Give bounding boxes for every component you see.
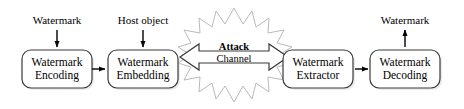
block-label-watermark-encoding: Watermark Encoding xyxy=(22,56,92,82)
block-label-line2: Embedding xyxy=(108,69,178,82)
io-label-output-watermark: Watermark xyxy=(361,14,449,26)
block-label-line2: Decoding xyxy=(370,69,440,82)
block-label-watermark-decoding: Watermark Decoding xyxy=(370,56,440,82)
block-label-line2: Encoding xyxy=(22,69,92,82)
io-label-input-watermark: Watermark xyxy=(13,14,101,26)
block-label-watermark-embedding: Watermark Embedding xyxy=(108,56,178,82)
block-label-line1: Watermark xyxy=(22,56,92,69)
block-label-line1: Watermark xyxy=(370,56,440,69)
block-label-watermark-extractor: Watermark Extractor xyxy=(283,56,353,82)
attack-channel-label-attack: Attack xyxy=(188,41,280,53)
block-label-line1: Watermark xyxy=(283,56,353,69)
watermarking-system-diagram: Watermark Encoding Watermark Embedding W… xyxy=(0,0,464,109)
io-label-host-object: Host object xyxy=(99,14,187,26)
attack-channel-label-channel: Channel xyxy=(188,53,280,65)
block-label-line1: Watermark xyxy=(108,56,178,69)
block-label-line2: Extractor xyxy=(283,69,353,82)
